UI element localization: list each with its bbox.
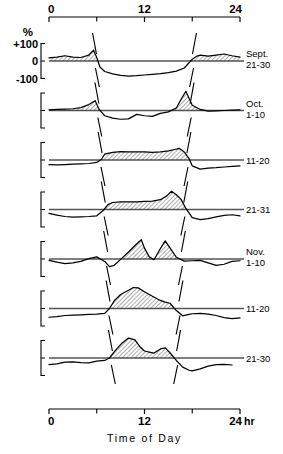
top-time-axis-tick-label: 12 — [138, 3, 151, 15]
sunrise-marker-lower — [111, 365, 115, 384]
axis-unit-label: hr — [244, 415, 255, 427]
panel-1: Sept.21-30 — [41, 33, 270, 87]
sunset-marker-upper — [190, 83, 194, 104]
panel-3: 11-20 — [41, 132, 270, 186]
top-time-axis: 01224 — [48, 3, 243, 22]
panel-label-month: Sept. — [246, 48, 268, 59]
positive-hatch-area — [121, 240, 153, 259]
plot-area: 0122401224hr%+1000-100Sept.21-30Oct.1-10… — [13, 3, 270, 444]
panel-label-days: 11-20 — [246, 303, 270, 314]
sunset-marker-lower — [176, 316, 180, 335]
panel-label-days: 1-10 — [246, 109, 265, 120]
panel-label-days: 21-31 — [246, 204, 270, 215]
panel-7: 21-30 — [41, 330, 270, 384]
sunset-marker-lower — [181, 217, 185, 236]
positive-hatch-area — [104, 191, 187, 209]
bottom-time-axis: 01224hr — [48, 409, 255, 427]
sunset-marker-lower — [179, 266, 183, 285]
sunset-marker-upper — [193, 33, 197, 54]
scale-bracket — [41, 341, 45, 376]
activity-curve — [49, 91, 240, 119]
scale-bracket — [41, 192, 45, 227]
positive-hatch-area — [100, 148, 189, 160]
panel-4: 21-31 — [41, 182, 270, 236]
sunset-marker-upper — [179, 281, 183, 302]
circadian-activity-figure: 0122401224hr%+1000-100Sept.21-30Oct.1-10… — [0, 0, 283, 454]
sunrise-marker-lower — [109, 316, 113, 335]
bottom-time-axis-tick-label: 0 — [48, 415, 54, 427]
scale-bracket — [41, 44, 45, 79]
positive-hatch-area — [49, 50, 98, 61]
sunset-marker-lower — [190, 68, 194, 87]
scale-bracket — [41, 242, 45, 277]
activity-curve — [49, 50, 240, 76]
panel-6: 11-20 — [41, 281, 270, 335]
top-time-axis-tick-label: 24 — [229, 3, 242, 15]
top-time-axis-tick-label: 0 — [48, 3, 54, 15]
y-axis-unit: % — [23, 26, 33, 38]
y-axis-tick-label: +100 — [13, 38, 38, 50]
scale-bracket — [41, 291, 45, 326]
panel-label-days: 21-30 — [246, 59, 270, 70]
y-axis-legend: %+1000-100 — [13, 26, 38, 85]
sunrise-marker-lower — [104, 217, 108, 236]
panel-5: Nov.1-10 — [41, 231, 265, 285]
panel-label-days: 11-20 — [246, 155, 270, 166]
panel-label-days: 21-30 — [246, 353, 270, 364]
bottom-time-axis-tick-label: 24 — [229, 415, 242, 427]
scale-bracket — [41, 143, 45, 178]
sunset-marker-upper — [177, 330, 181, 351]
panel-label-month: Nov. — [246, 246, 265, 257]
y-axis-tick-label: 0 — [32, 55, 38, 67]
sunset-marker-upper — [181, 231, 185, 252]
panel-label-days: 1-10 — [246, 257, 265, 268]
y-axis-tick-label: -100 — [16, 73, 38, 85]
sunrise-marker-upper — [104, 231, 108, 252]
sunrise-marker-lower — [95, 68, 99, 87]
sunrise-marker-upper — [106, 281, 110, 302]
sunset-marker-lower — [174, 365, 178, 384]
sunrise-marker-upper — [108, 330, 112, 351]
panel-2: Oct.1-10 — [41, 83, 265, 137]
panel-label-month: Oct. — [246, 98, 263, 109]
bottom-time-axis-tick-label: 12 — [138, 415, 151, 427]
figure-caption: Time of Day — [107, 432, 182, 444]
sunrise-marker-lower — [107, 266, 111, 285]
scale-bracket — [41, 93, 45, 128]
